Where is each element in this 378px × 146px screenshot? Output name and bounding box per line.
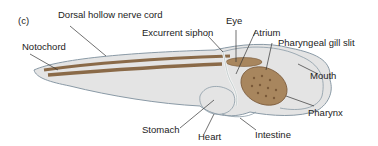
label-pharyngeal-gill-slit: Pharyngeal gill slit bbox=[278, 38, 355, 48]
label-atrium: Atrium bbox=[253, 28, 280, 38]
label-eye: Eye bbox=[226, 16, 242, 26]
larva-body bbox=[34, 44, 331, 115]
label-pharynx: Pharynx bbox=[308, 108, 343, 118]
tunicate-larva-diagram: (c) Dorsal hollow nerve cord Notochord E… bbox=[0, 0, 378, 146]
label-heart: Heart bbox=[198, 132, 221, 142]
eye-vesicle bbox=[226, 58, 262, 67]
label-notochord: Notochord bbox=[22, 42, 66, 52]
label-mouth: Mouth bbox=[310, 71, 336, 81]
label-intestine: Intestine bbox=[255, 130, 291, 140]
panel-label: (c) bbox=[18, 16, 29, 26]
label-stomach: Stomach bbox=[142, 125, 180, 135]
label-excurrent-siphon: Excurrent siphon bbox=[142, 28, 213, 38]
label-dorsal-nerve-cord: Dorsal hollow nerve cord bbox=[58, 10, 163, 20]
